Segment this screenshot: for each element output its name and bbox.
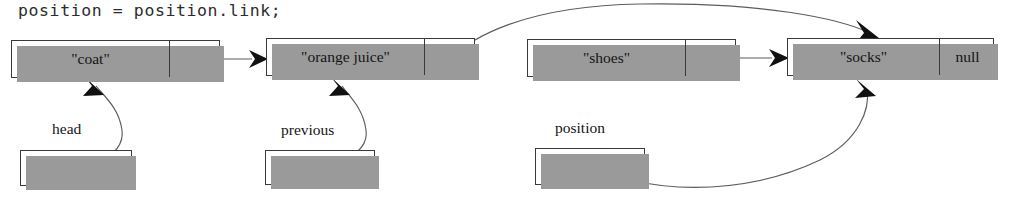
linked-list-diagram: position = position.link; "coat" "orange… xyxy=(0,0,1009,208)
node-link-cell xyxy=(169,41,221,77)
variable-label-position: position xyxy=(555,119,605,137)
node-link-cell xyxy=(685,40,737,76)
node-data-cell: "coat" xyxy=(12,41,169,77)
list-node-socks: "socks" null xyxy=(787,38,994,76)
node-link-cell-null: null xyxy=(939,39,995,75)
variable-label-previous: previous xyxy=(281,121,334,139)
variable-box-head xyxy=(20,150,132,186)
node-data-cell: "socks" xyxy=(788,39,939,75)
list-node-coat: "coat" xyxy=(11,40,220,78)
variable-label-head: head xyxy=(52,120,81,138)
variable-box-position xyxy=(535,148,645,185)
node-data-cell: "orange juice" xyxy=(267,39,424,75)
node-data-cell: "shoes" xyxy=(528,40,685,76)
list-node-orange-juice: "orange juice" xyxy=(266,38,475,76)
pointer-arrows-layer xyxy=(0,0,1009,208)
list-node-shoes: "shoes" xyxy=(527,39,736,77)
variable-box-previous xyxy=(265,150,375,185)
code-statement: position = position.link; xyxy=(18,1,281,20)
node-link-cell xyxy=(424,39,476,75)
